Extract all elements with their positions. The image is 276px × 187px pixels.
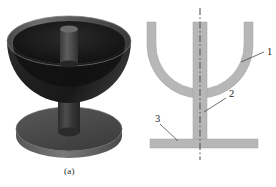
caption-panel-a: (a) [64,166,75,176]
base-plate-section [150,139,258,148]
callout-number-3: 3 [155,113,160,124]
callout-number-2: 2 [229,88,234,99]
center-post-top [60,25,78,32]
render-svg [0,0,138,187]
callout-number-1: 1 [267,46,272,57]
section-geometry [147,8,258,160]
figure-container: (a) 1 2 3 ( [0,0,276,187]
leader-3 [160,124,178,141]
center-post-bottom [60,60,78,67]
center-post-body [60,29,78,64]
leader-2 [204,98,226,112]
stem-foot-ellipse [58,128,80,137]
panel-b-cross-section: 1 2 3 (b) [138,0,276,187]
panel-a-render: (a) [0,0,138,187]
cross-section-svg: 1 2 3 [138,0,276,187]
center-post [60,25,78,67]
